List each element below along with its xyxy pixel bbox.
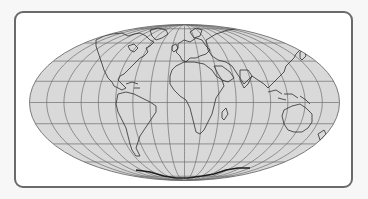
world-map[interactable]	[0, 0, 368, 199]
